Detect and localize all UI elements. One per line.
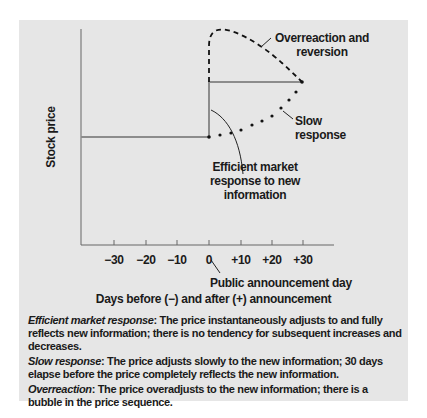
efficient-label-line1: Efficient market — [180, 160, 330, 174]
slow-response-pointer — [283, 111, 293, 119]
note-term: Overreaction — [28, 383, 92, 395]
x-tick-label: +20 — [257, 253, 287, 267]
note-slow: Slow response: The price adjusts slowly … — [28, 355, 404, 381]
overreaction-label-line2: reversion — [272, 45, 372, 59]
overreaction-label-line1: Overreaction and — [272, 31, 372, 45]
slow-response-annotation: Slow response — [295, 114, 375, 142]
x-axis-ticks — [114, 240, 303, 245]
x-tick-label: −10 — [162, 253, 192, 267]
x-tick-label: −20 — [131, 253, 161, 267]
x-tick-label: 0 — [194, 253, 224, 267]
y-axis-label: Stock price — [44, 106, 58, 167]
note-term: Efficient market response — [28, 314, 154, 326]
efficient-annotation: Efficient market response to new informa… — [180, 160, 330, 202]
x-tick-label: −30 — [99, 253, 129, 267]
overreaction-pointer — [261, 38, 271, 47]
note-overreaction: Overreaction: The price overadjusts to t… — [28, 383, 404, 409]
x-tick-label: +10 — [226, 253, 256, 267]
slow-response-dots — [207, 80, 304, 139]
efficient-label-line2: response to new information — [180, 174, 330, 202]
overreaction-annotation: Overreaction and reversion — [272, 31, 372, 59]
x-tick-label: +30 — [288, 253, 318, 267]
announcement-annotation: Public announcement day — [210, 276, 360, 290]
note-efficient: Efficient market response: The price ins… — [28, 314, 404, 353]
note-term: Slow response — [28, 355, 101, 367]
x-axis-label: Days before (−) and after (+) announceme… — [0, 292, 427, 306]
efficient-response-line — [81, 82, 302, 137]
definitions-notes: Efficient market response: The price ins… — [28, 314, 404, 411]
